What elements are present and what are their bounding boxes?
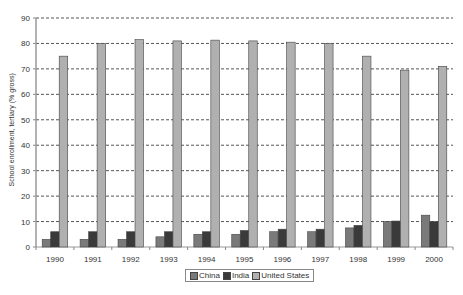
bar-united-states: [173, 41, 182, 247]
y-tick-label: 50: [21, 116, 30, 125]
bar-united-states: [211, 40, 220, 247]
bar-united-states: [362, 56, 371, 247]
x-tick-label: 2000: [425, 255, 443, 264]
x-tick-label: 1993: [160, 255, 178, 264]
bar-united-states: [400, 70, 409, 247]
bar-india: [278, 229, 287, 247]
bar-china: [383, 222, 392, 247]
bar-india: [316, 229, 325, 247]
bar-china: [308, 232, 317, 247]
bar-united-states: [287, 42, 296, 247]
y-tick-label: 60: [21, 90, 30, 99]
bar-india: [127, 232, 136, 247]
bar-china: [156, 237, 165, 247]
x-tick-label: 1994: [198, 255, 216, 264]
y-tick-label: 10: [21, 218, 30, 227]
x-tick-label: 1996: [274, 255, 292, 264]
bar-china: [270, 232, 279, 247]
y-tick-label: 30: [21, 167, 30, 176]
legend-item-india: India: [223, 271, 249, 280]
bar-india: [392, 221, 401, 247]
x-tick-label: 1992: [122, 255, 140, 264]
x-tick-label: 1995: [236, 255, 254, 264]
bar-united-states: [438, 66, 447, 247]
x-tick-label: 1999: [387, 255, 405, 264]
bar-chart: 0102030405060708090199019911992199319941…: [0, 0, 463, 295]
bar-china: [42, 239, 51, 247]
bar-united-states: [325, 43, 334, 247]
bar-india: [51, 232, 60, 247]
bar-china: [194, 234, 203, 247]
bar-india: [89, 232, 98, 247]
x-tick-label: 1998: [349, 255, 367, 264]
bar-india: [240, 230, 249, 247]
bar-united-states: [249, 41, 258, 247]
bar-china: [232, 234, 241, 247]
x-tick-label: 1991: [84, 255, 102, 264]
bar-china: [80, 239, 89, 247]
bar-india: [164, 232, 173, 247]
y-tick-label: 90: [21, 14, 30, 23]
y-tick-label: 70: [21, 65, 30, 74]
bar-china: [421, 215, 430, 247]
bar-china: [345, 228, 354, 247]
bar-india: [354, 225, 363, 247]
legend-item-united-states: United States: [252, 271, 309, 280]
bar-china: [118, 239, 127, 247]
y-tick-label: 20: [21, 192, 30, 201]
y-tick-label: 0: [26, 243, 31, 252]
x-tick-label: 1997: [311, 255, 329, 264]
bar-india: [430, 222, 439, 247]
bar-india: [202, 232, 211, 247]
y-axis-label: School enrollment, tertiary (% gross): [8, 77, 15, 187]
legend-item-china: China: [190, 271, 220, 280]
bar-united-states: [135, 40, 144, 247]
bar-united-states: [97, 43, 106, 247]
legend: China India United States: [185, 269, 314, 282]
y-tick-label: 80: [21, 39, 30, 48]
y-tick-label: 40: [21, 141, 30, 150]
x-tick-label: 1990: [46, 255, 64, 264]
bar-united-states: [59, 56, 68, 247]
